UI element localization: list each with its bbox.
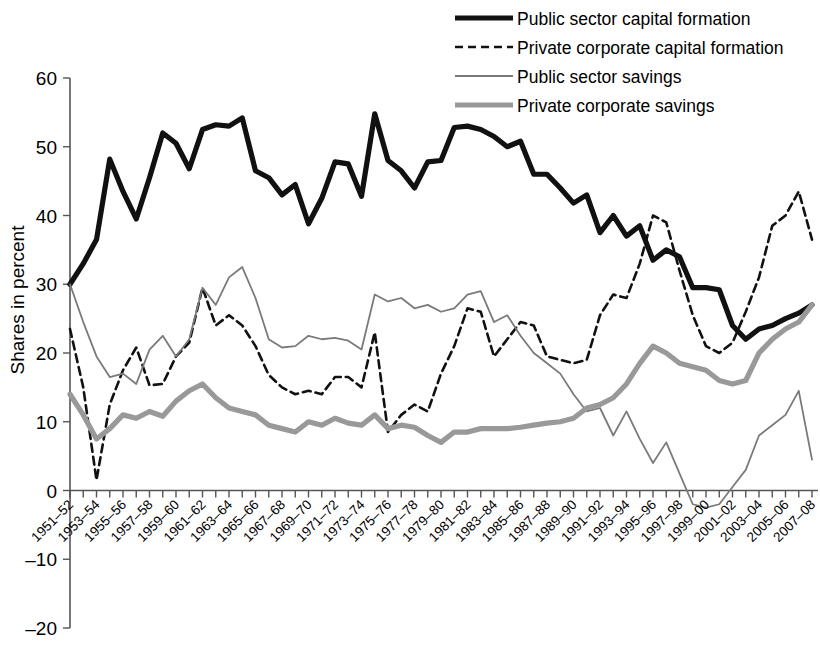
series-line-1 xyxy=(70,191,812,480)
y-tick-label: 0 xyxy=(46,481,57,502)
y-tick-label: 10 xyxy=(36,412,57,433)
y-tick-label: –20 xyxy=(25,618,57,639)
series-line-2 xyxy=(70,267,812,508)
legend-label: Public sector savings xyxy=(517,67,682,87)
axes-layer: 6050403020100–10–20 xyxy=(25,68,818,639)
y-axis-title: Shares in percent xyxy=(7,225,28,375)
legend-item: Private corporate capital formation xyxy=(455,38,784,58)
series-line-0 xyxy=(70,114,812,340)
legend-item: Public sector capital formation xyxy=(455,9,750,29)
y-tick-label: –10 xyxy=(25,549,57,570)
series-layer xyxy=(70,114,812,508)
x-tick-labels: 1951–521953–541955–561957–581959–601961–… xyxy=(28,497,818,545)
y-tick-label: 30 xyxy=(36,274,57,295)
y-tick-label: 40 xyxy=(36,206,57,227)
y-tick-label: 60 xyxy=(36,68,57,89)
y-tick-label: 50 xyxy=(36,137,57,158)
y-tick-label: 20 xyxy=(36,343,57,364)
legend-label: Public sector capital formation xyxy=(517,9,750,29)
legend-item: Public sector savings xyxy=(455,67,682,87)
line-chart: 6050403020100–10–20 1951–521953–541955–5… xyxy=(0,0,820,647)
series-line-3 xyxy=(70,305,812,443)
legend-label: Private corporate capital formation xyxy=(517,38,784,58)
legend-label: Private corporate savings xyxy=(517,96,715,116)
chart-legend: Public sector capital formationPrivate c… xyxy=(455,9,784,116)
chart-container: 6050403020100–10–20 1951–521953–541955–5… xyxy=(0,0,820,647)
legend-item: Private corporate savings xyxy=(455,96,715,116)
